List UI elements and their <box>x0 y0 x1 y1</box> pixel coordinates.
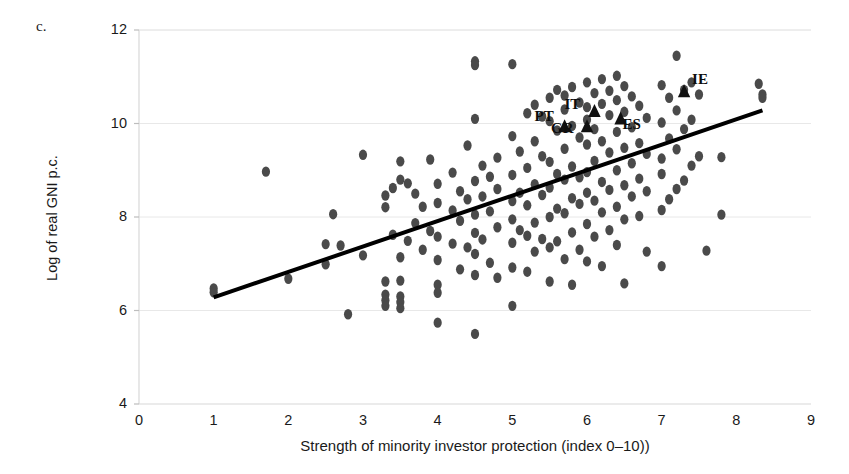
data-point <box>396 275 404 285</box>
data-point <box>396 303 404 313</box>
data-point <box>546 276 554 286</box>
data-point <box>463 242 471 252</box>
data-point <box>673 105 681 115</box>
data-point <box>758 93 766 103</box>
data-point <box>598 136 606 146</box>
data-point <box>523 200 531 210</box>
figure-panel-c: c. Log of real GNI p.c. Strength of mino… <box>0 0 849 474</box>
data-point <box>598 177 606 187</box>
data-point <box>426 154 434 164</box>
data-point <box>508 238 516 248</box>
data-point <box>396 156 404 166</box>
data-point <box>590 156 598 166</box>
data-point <box>673 184 681 194</box>
data-point <box>434 231 442 241</box>
data-point <box>411 188 419 198</box>
data-point <box>434 179 442 189</box>
data-point <box>546 242 554 252</box>
data-point <box>478 191 486 201</box>
data-point <box>673 144 681 154</box>
data-point <box>620 143 628 153</box>
data-point <box>262 166 270 176</box>
data-point <box>695 89 703 99</box>
data-point <box>531 246 539 256</box>
data-point <box>583 77 591 87</box>
data-point <box>508 262 516 272</box>
data-point <box>359 250 367 260</box>
data-point <box>493 273 501 283</box>
data-point <box>508 301 516 311</box>
data-point <box>635 211 643 221</box>
data-point <box>486 172 494 182</box>
data-point <box>568 82 576 92</box>
data-point <box>575 199 583 209</box>
data-point <box>463 194 471 204</box>
data-point <box>628 158 636 168</box>
data-point <box>643 113 651 123</box>
data-point <box>658 205 666 215</box>
data-point <box>471 249 479 259</box>
data-point <box>434 198 442 208</box>
data-point <box>396 174 404 184</box>
data-point <box>471 60 479 70</box>
data-point <box>508 170 516 180</box>
data-point <box>546 212 554 222</box>
data-point <box>553 85 561 95</box>
data-point <box>561 208 569 218</box>
data-point <box>396 252 404 262</box>
data-point <box>538 234 546 244</box>
data-point <box>665 93 673 103</box>
data-point <box>598 207 606 217</box>
data-point <box>620 214 628 224</box>
data-point <box>673 51 681 61</box>
data-point <box>605 225 613 235</box>
data-point <box>553 236 561 246</box>
data-point <box>337 240 345 250</box>
data-point <box>613 240 621 250</box>
data-point <box>478 160 486 170</box>
data-point <box>471 114 479 124</box>
data-point <box>620 278 628 288</box>
data-point <box>643 246 651 256</box>
data-point <box>568 193 576 203</box>
data-point <box>419 245 427 255</box>
data-point <box>658 80 666 90</box>
data-point <box>553 203 561 213</box>
data-point <box>613 95 621 105</box>
data-point <box>583 139 591 149</box>
data-point <box>523 163 531 173</box>
data-point <box>628 91 636 101</box>
data-point <box>381 202 389 212</box>
data-point <box>486 258 494 268</box>
data-point <box>419 202 427 212</box>
data-point <box>583 102 591 112</box>
data-point <box>643 186 651 196</box>
data-point <box>658 169 666 179</box>
data-point <box>561 144 569 154</box>
data-point <box>404 236 412 246</box>
data-point <box>381 190 389 200</box>
data-point <box>755 79 763 89</box>
data-point <box>687 160 695 170</box>
data-point <box>538 151 546 161</box>
data-point <box>658 117 666 127</box>
data-point <box>568 227 576 237</box>
data-point <box>449 238 457 248</box>
data-point <box>478 234 486 244</box>
data-point <box>583 219 591 229</box>
data-point <box>605 147 613 157</box>
data-point <box>605 185 613 195</box>
data-point <box>486 206 494 216</box>
data-point <box>493 222 501 232</box>
data-point <box>508 59 516 69</box>
data-point <box>493 152 501 162</box>
data-point <box>583 256 591 266</box>
data-point <box>658 261 666 271</box>
data-point <box>434 255 442 265</box>
data-point <box>575 245 583 255</box>
data-point <box>359 150 367 160</box>
data-point <box>658 153 666 163</box>
data-point <box>344 309 352 319</box>
data-point <box>456 186 464 196</box>
country-marker-triangle <box>678 84 690 97</box>
